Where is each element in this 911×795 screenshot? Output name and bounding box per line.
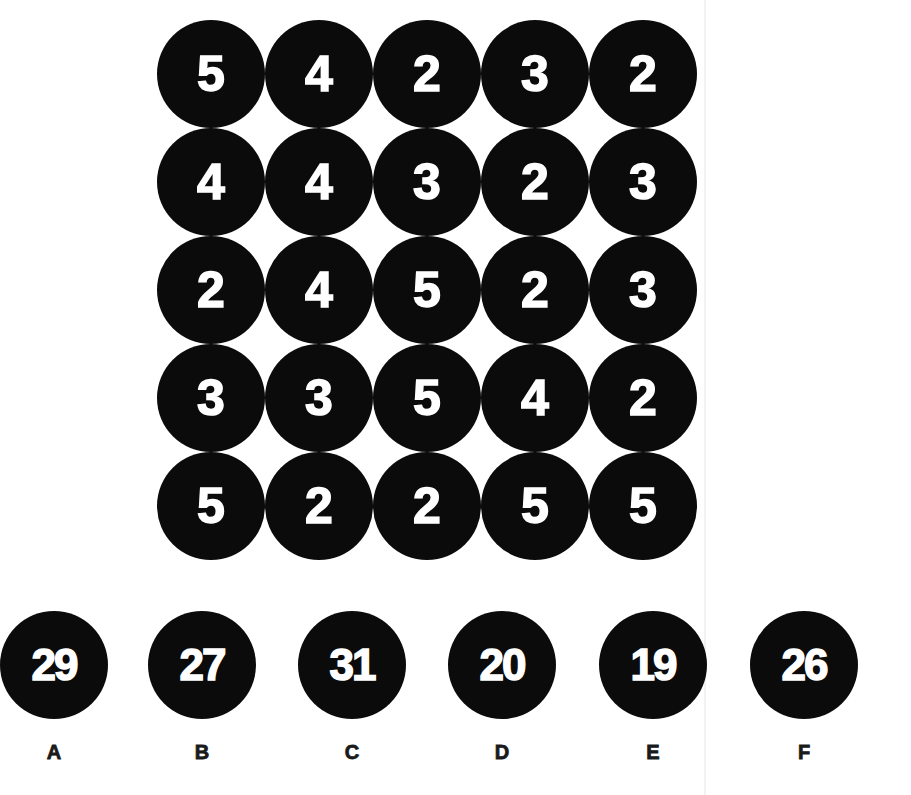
grid-cell: 2 (373, 452, 481, 560)
option-value-circle[interactable]: 19 (599, 611, 707, 719)
option-value-circle[interactable]: 26 (750, 611, 858, 719)
option-label: F (798, 741, 810, 764)
option-b[interactable]: 27 B (148, 611, 256, 764)
number-grid: 5 4 2 3 2 4 4 3 2 3 2 4 5 2 3 3 3 5 4 2 … (157, 20, 697, 560)
grid-cell: 2 (157, 236, 265, 344)
grid-cell: 5 (589, 452, 697, 560)
grid-cell: 5 (373, 236, 481, 344)
grid-cell: 2 (589, 20, 697, 128)
grid-cell: 5 (157, 20, 265, 128)
grid-cell: 2 (589, 344, 697, 452)
option-a[interactable]: 29 A (0, 611, 108, 764)
grid-cell: 4 (481, 344, 589, 452)
grid-cell: 4 (157, 128, 265, 236)
grid-cell: 3 (481, 20, 589, 128)
option-label: C (345, 741, 359, 764)
grid-cell: 4 (265, 236, 373, 344)
grid-cell: 4 (265, 20, 373, 128)
option-d[interactable]: 20 D (448, 611, 556, 764)
option-label: E (646, 741, 659, 764)
grid-cell: 2 (481, 128, 589, 236)
option-f[interactable]: 26 F (750, 611, 858, 764)
option-value-circle[interactable]: 29 (0, 611, 108, 719)
option-value-circle[interactable]: 20 (448, 611, 556, 719)
option-value-circle[interactable]: 27 (148, 611, 256, 719)
option-label: B (195, 741, 209, 764)
grid-cell: 5 (481, 452, 589, 560)
grid-cell: 3 (373, 128, 481, 236)
grid-cell: 5 (373, 344, 481, 452)
grid-cell: 3 (157, 344, 265, 452)
grid-cell: 5 (157, 452, 265, 560)
option-value-circle[interactable]: 31 (298, 611, 406, 719)
grid-cell: 2 (265, 452, 373, 560)
grid-cell: 2 (373, 20, 481, 128)
grid-cell: 3 (265, 344, 373, 452)
option-e[interactable]: 19 E (599, 611, 707, 764)
option-c[interactable]: 31 C (298, 611, 406, 764)
option-label: D (495, 741, 509, 764)
grid-cell: 3 (589, 236, 697, 344)
answer-options: 29 A 27 B 31 C 20 D 19 E 26 F (0, 611, 911, 795)
grid-cell: 4 (265, 128, 373, 236)
grid-cell: 2 (481, 236, 589, 344)
grid-cell: 3 (589, 128, 697, 236)
option-label: A (47, 741, 61, 764)
